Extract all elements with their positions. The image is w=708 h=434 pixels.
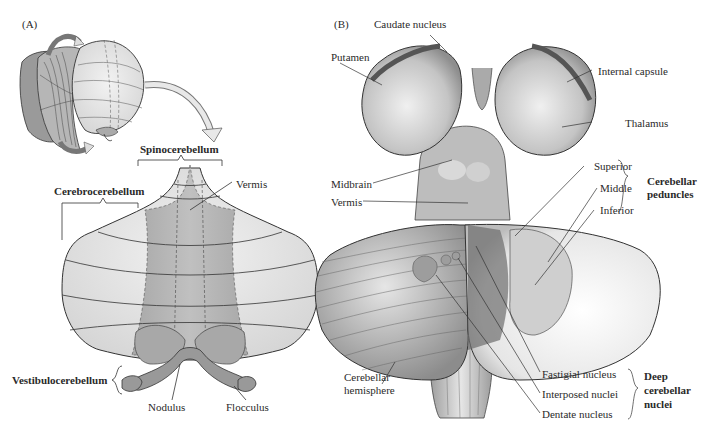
fastigial-nucleus-label: Fastigial nucleus — [542, 368, 616, 380]
cerebellar-peduncles-label-2: peduncles — [647, 188, 693, 200]
putamen-label: Putamen — [331, 51, 370, 63]
spinocerebellum-label: Spinocerebellum — [140, 143, 219, 155]
nodulus-label: Nodulus — [148, 401, 185, 413]
vestibulocerebellum-label: Vestibulocerebellum — [12, 374, 107, 386]
interposed-nuclei-label: Interposed nuclei — [542, 388, 618, 400]
thalamus-label: Thalamus — [625, 117, 668, 129]
flattened-cerebellum — [62, 165, 318, 391]
panel-a-label: (A) — [22, 18, 37, 30]
deep-cerebellar-nuclei-label-2: cerebellar — [644, 384, 691, 396]
cerebellar-peduncles-label-1: Cerebellar — [647, 175, 697, 187]
cerebellar-hemisphere-label-1: Cerebellar — [344, 371, 390, 383]
deep-cerebellar-nuclei-label-3: nuclei — [644, 398, 672, 410]
deep-cerebellar-nuclei-label-1: Deep — [644, 370, 668, 382]
internal-capsule-label: Internal capsule — [598, 65, 668, 77]
caudate-nucleus-label: Caudate nucleus — [374, 18, 446, 30]
superior-peduncle-label: Superior — [594, 160, 632, 172]
midbrain-label: Midbrain — [331, 178, 372, 190]
cerebellar-hemisphere-label-2: hemisphere — [344, 384, 395, 396]
inferior-peduncle-label: Inferior — [600, 204, 634, 216]
vermis-label-b: Vermis — [331, 196, 362, 208]
panel-b-label: (B) — [334, 18, 349, 30]
flocculus-label: Flocculus — [226, 401, 269, 413]
vermis-label-a: Vermis — [236, 178, 267, 190]
middle-peduncle-label: Middle — [600, 182, 632, 194]
cerebrocerebellum-label: Cerebrocerebellum — [54, 185, 144, 197]
dentate-nucleus-label: Dentate nucleus — [542, 408, 613, 420]
small-cerebellum-icon — [20, 36, 222, 154]
brainstem-cerebellum-illustration — [315, 46, 660, 418]
